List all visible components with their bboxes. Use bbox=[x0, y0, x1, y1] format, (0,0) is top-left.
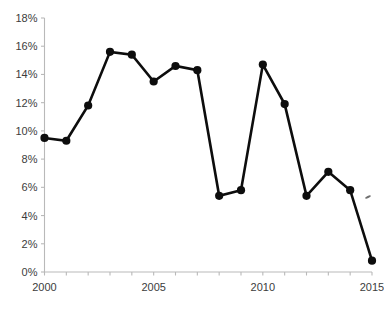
y-axis: 0%2%4%6%8%10%12%14%16%18% bbox=[15, 12, 44, 278]
data-point-2011 bbox=[281, 100, 289, 108]
y-tick-label: 0% bbox=[22, 266, 38, 278]
y-tick-label: 8% bbox=[22, 153, 38, 165]
y-tick-label: 10% bbox=[15, 125, 37, 137]
y-tick-label: 6% bbox=[22, 181, 38, 193]
data-point-2003 bbox=[106, 48, 114, 56]
line-chart: 0%2%4%6%8%10%12%14%16%18% 20002005201020… bbox=[0, 0, 384, 309]
x-tick-label: 2010 bbox=[251, 281, 275, 293]
data-point-2006 bbox=[171, 62, 179, 70]
y-tick-label: 18% bbox=[15, 12, 37, 24]
x-tick-label: 2000 bbox=[32, 281, 56, 293]
data-point-2013 bbox=[324, 168, 332, 176]
data-series bbox=[40, 48, 376, 265]
x-axis: 2000200520102015 bbox=[32, 272, 384, 293]
x-tick-label: 2015 bbox=[360, 281, 384, 293]
y-tick-label: 4% bbox=[22, 210, 38, 222]
data-point-2014 bbox=[346, 186, 354, 194]
data-point-2009 bbox=[237, 186, 245, 194]
data-point-2012 bbox=[302, 192, 310, 200]
x-tick-label: 2005 bbox=[141, 281, 165, 293]
data-point-2005 bbox=[150, 77, 158, 85]
y-tick-label: 14% bbox=[15, 68, 37, 80]
stray-speck bbox=[365, 195, 372, 199]
data-point-2015 bbox=[368, 257, 376, 265]
data-point-2001 bbox=[62, 137, 70, 145]
data-point-2007 bbox=[193, 66, 201, 74]
y-tick-label: 2% bbox=[22, 238, 38, 250]
chart-canvas: 0%2%4%6%8%10%12%14%16%18% 20002005201020… bbox=[0, 0, 384, 309]
y-tick-label: 12% bbox=[15, 97, 37, 109]
data-point-2010 bbox=[259, 60, 267, 68]
data-point-2004 bbox=[128, 51, 136, 59]
y-tick-label: 16% bbox=[15, 40, 37, 52]
data-point-2000 bbox=[40, 134, 48, 142]
data-point-2002 bbox=[84, 101, 92, 109]
series-line bbox=[45, 52, 373, 261]
data-point-2008 bbox=[215, 192, 223, 200]
